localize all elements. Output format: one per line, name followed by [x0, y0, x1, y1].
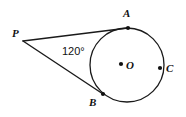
- point-marker-b: [101, 92, 105, 96]
- point-marker-a: [126, 26, 130, 30]
- label-angle-120: 120°: [62, 45, 85, 57]
- tangent-line-pa: [23, 28, 128, 41]
- geometry-figure: P A B C O 120°: [0, 0, 186, 117]
- label-p: P: [12, 27, 19, 39]
- label-c: C: [166, 62, 174, 74]
- label-a: A: [122, 7, 130, 19]
- diagram-canvas: P A B C O 120°: [0, 0, 186, 117]
- label-o: O: [126, 59, 134, 71]
- label-b: B: [88, 96, 96, 108]
- point-marker-c: [158, 66, 162, 70]
- point-marker-o: [119, 62, 123, 66]
